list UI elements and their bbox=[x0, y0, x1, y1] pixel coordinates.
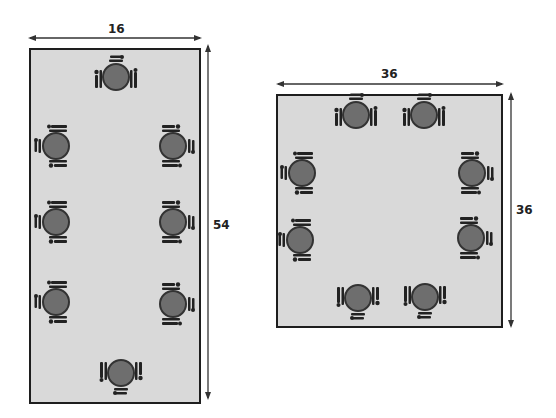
place-setting-icon bbox=[404, 284, 447, 319]
place-setting-icon bbox=[280, 152, 315, 195]
place-setting-icon bbox=[334, 93, 377, 128]
square-table-place-settings bbox=[0, 0, 556, 418]
place-setting-icon bbox=[459, 151, 494, 194]
place-setting-icon bbox=[402, 93, 445, 128]
place-setting-icon bbox=[278, 219, 313, 262]
place-setting-icon bbox=[458, 216, 493, 259]
place-setting-icon bbox=[337, 285, 380, 320]
